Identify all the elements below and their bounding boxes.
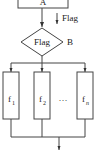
flag-arrow-label: Flag (62, 13, 79, 23)
decision-side-label: B (67, 37, 73, 47)
exit-arrowhead-icon (58, 146, 61, 150)
svg-text:2: 2 (43, 100, 46, 106)
box-a: A (18, 0, 68, 8)
arrowhead-icon (41, 68, 44, 72)
svg-text:f: f (39, 94, 42, 104)
svg-text:f: f (8, 94, 11, 104)
decision-diamond: Flag B (21, 28, 73, 56)
ellipsis: … (59, 93, 68, 103)
decision-label: Flag (34, 37, 51, 47)
arrowhead-icon (10, 68, 13, 72)
branch-box-f2: f 2 (34, 72, 50, 119)
arrowhead-icon (84, 68, 87, 72)
branch-box-fn: f n (77, 72, 93, 119)
box-a-label: A (40, 0, 47, 7)
branch-box-f1: f 1 (3, 72, 19, 119)
arrowhead-icon (40, 22, 44, 27)
svg-text:n: n (86, 100, 89, 106)
flowchart: A Flag Flag B f 1 f 2 … f n (0, 0, 101, 156)
svg-text:f: f (82, 94, 85, 104)
svg-text:1: 1 (12, 100, 15, 106)
flag-arrowhead-icon (56, 20, 59, 24)
